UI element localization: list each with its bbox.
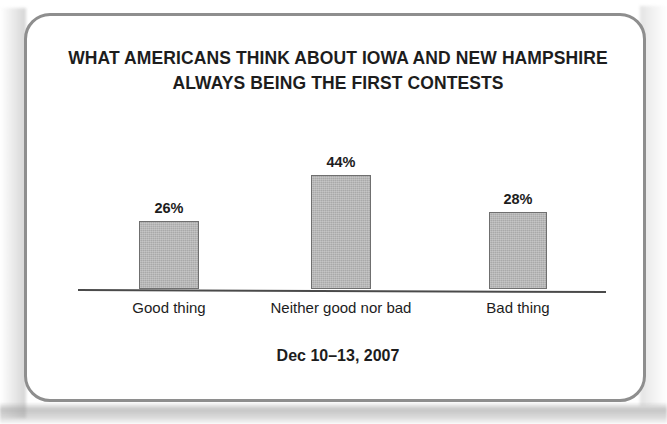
bar-good-thing[interactable]: 26% — [139, 221, 199, 289]
chart-title-line-2: ALWAYS BEING THE FIRST CONTESTS — [53, 71, 623, 96]
x-axis-tick-labels: Good thing Neither good nor bad Bad thin… — [54, 299, 620, 323]
bar-series: 26% 44% 28% — [54, 126, 620, 290]
scan-shadow-left — [0, 8, 26, 418]
x-tick-label-neither-good-nor-bad: Neither good nor bad — [241, 299, 441, 316]
chart-footnote-date: Dec 10–13, 2007 — [53, 347, 623, 365]
plot-area: 26% 44% 28% — [54, 126, 620, 306]
chart-page: WHAT AMERICANS THINK ABOUT IOWA AND NEW … — [0, 0, 667, 424]
chart-title: WHAT AMERICANS THINK ABOUT IOWA AND NEW … — [53, 46, 623, 96]
x-tick-label-good-thing: Good thing — [109, 299, 229, 316]
bar-group-good-thing: 26% — [137, 221, 201, 289]
bar-neither-good-nor-bad[interactable]: 44% — [311, 175, 371, 289]
scan-shadow-bottom — [0, 402, 667, 424]
bar-value-bad-thing: 28% — [503, 191, 532, 207]
bar-value-neither-good-nor-bad: 44% — [326, 154, 355, 170]
bar-bad-thing[interactable]: 28% — [489, 212, 547, 289]
bar-group-neither-good-nor-bad: 44% — [309, 175, 373, 289]
bar-value-good-thing: 26% — [154, 200, 183, 216]
chart-card: WHAT AMERICANS THINK ABOUT IOWA AND NEW … — [24, 13, 646, 402]
bar-group-bad-thing: 28% — [486, 212, 550, 289]
chart-title-line-1: WHAT AMERICANS THINK ABOUT IOWA AND NEW … — [68, 48, 608, 68]
x-tick-label-bad-thing: Bad thing — [458, 299, 578, 316]
